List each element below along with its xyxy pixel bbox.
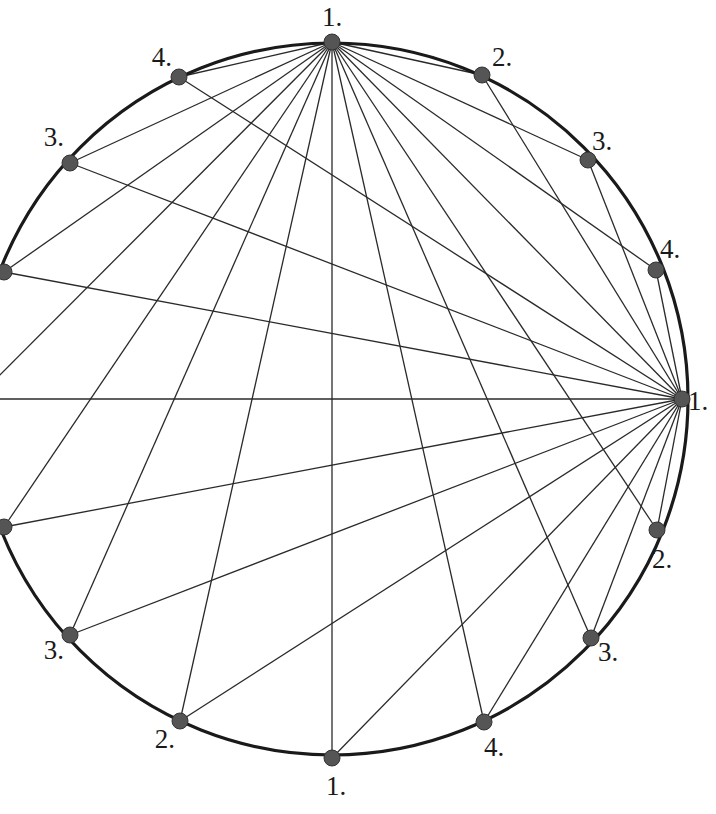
node-dot-upper-right-1 — [474, 67, 490, 83]
chord-line — [332, 42, 484, 722]
node-label-upper-left-2: 3. — [44, 122, 64, 152]
node-label-upper-right-1: 2. — [492, 42, 512, 72]
chord-line — [656, 270, 682, 399]
node-dot-upper-right-3 — [648, 262, 664, 278]
node-dot-bottom — [324, 750, 340, 766]
chord-line — [180, 42, 332, 721]
chord-line — [179, 42, 332, 77]
node-labels: 1.2.3.4.1.2.3.4.1.2.3.3.4. — [44, 2, 709, 801]
circle-nodes — [0, 34, 690, 766]
node-label-bottom: 1. — [326, 771, 346, 801]
node-dot-upper-left-1 — [171, 69, 187, 85]
chord-line — [332, 42, 588, 160]
chord-line — [4, 42, 332, 272]
chord-circle-diagram: 1.2.3.4.1.2.3.4.1.2.3.3.4. — [0, 0, 716, 814]
chord-line — [332, 42, 657, 530]
node-label-lower-left-2: 3. — [44, 635, 64, 665]
chord-line — [70, 163, 682, 399]
chord-line — [0, 42, 332, 399]
chord-line — [4, 399, 682, 527]
node-label-lower-right-1: 2. — [652, 544, 672, 574]
node-label-right: 1. — [688, 386, 708, 416]
chord-line — [332, 42, 656, 270]
node-dot-top — [324, 34, 340, 50]
chord-lines — [0, 42, 682, 758]
chord-line — [482, 75, 682, 399]
node-dot-lower-right-2 — [583, 630, 599, 646]
chord-line — [332, 399, 682, 758]
node-dot-lower-left-2 — [62, 627, 78, 643]
chord-line — [332, 42, 591, 638]
node-label-lower-left-1: 2. — [155, 724, 175, 754]
node-dot-upper-left-2 — [62, 155, 78, 171]
node-label-lower-right-3: 4. — [484, 732, 504, 762]
chord-line — [4, 272, 682, 399]
node-dot-lower-right-1 — [649, 522, 665, 538]
node-label-top: 1. — [322, 2, 342, 32]
node-label-upper-left-1: 4. — [152, 42, 172, 72]
node-label-upper-right-2: 3. — [592, 126, 612, 156]
chord-line — [4, 42, 332, 527]
chord-line — [180, 399, 682, 721]
node-dot-lower-right-3 — [476, 714, 492, 730]
node-dot-lower-left-3 — [0, 519, 12, 535]
chord-line — [70, 399, 682, 635]
node-label-lower-right-2: 3. — [598, 637, 618, 667]
node-label-upper-right-3: 4. — [660, 234, 680, 264]
node-dot-upper-left-3 — [0, 264, 12, 280]
chord-line — [70, 42, 332, 635]
chord-line — [70, 42, 332, 163]
chord-line — [332, 42, 682, 399]
